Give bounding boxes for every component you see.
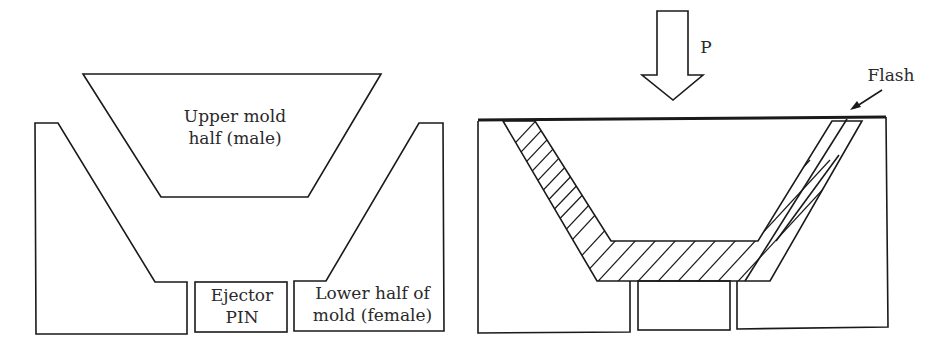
- lower-mold-left-block: [35, 123, 187, 334]
- ejector-pin-closed: [638, 281, 730, 330]
- ejector-pin-label: Ejector PIN: [197, 284, 287, 328]
- mold-right-block: [737, 117, 888, 329]
- compression-molding-diagram: Upper mold half (male) Ejector PIN Lower…: [0, 0, 946, 351]
- flash-label: Flash: [866, 64, 916, 86]
- parting-line: [478, 117, 886, 120]
- pressure-arrow-icon: [642, 11, 703, 100]
- mold-left-block: [478, 121, 630, 333]
- molded-part-hatched: [490, 95, 862, 290]
- pressure-label: P: [696, 36, 716, 58]
- upper-mold-label: Upper mold half (male): [170, 105, 300, 149]
- diagram-drawing: [0, 0, 946, 351]
- lower-mold-label: Lower half of mold (female): [300, 282, 445, 326]
